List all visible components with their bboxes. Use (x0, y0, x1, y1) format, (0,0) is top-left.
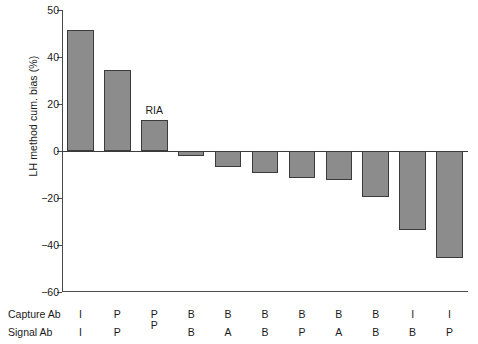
y-axis-tick-label: 0 (53, 145, 59, 157)
category-cell: B (188, 326, 195, 338)
category-cell: B (188, 308, 195, 320)
y-axis-tick-label: 40 (47, 51, 59, 63)
category-cell: P (114, 326, 121, 338)
bar (362, 151, 389, 197)
category-cell: B (372, 326, 379, 338)
bar-series (62, 10, 468, 292)
bar (326, 151, 353, 180)
category-label-table: Capture AbIPPBBBBBBIISignal AbIPBABPABBP… (0, 298, 478, 344)
y-axis-tick-label: −40 (41, 239, 59, 251)
category-cell: P (298, 326, 305, 338)
bar (141, 120, 168, 151)
bar (178, 151, 205, 156)
category-cell: B (298, 308, 305, 320)
category-cell: I (79, 308, 82, 320)
category-cell: P (114, 308, 121, 320)
category-cell: A (335, 326, 342, 338)
category-cell-merged: P (151, 319, 158, 331)
category-cell: P (446, 326, 453, 338)
plot-area: 5040200−20−40−60 RIA (62, 10, 468, 292)
bar (104, 70, 131, 151)
category-cell: B (409, 326, 416, 338)
category-row-label: Capture Ab (8, 308, 61, 320)
category-row-label: Signal Ab (8, 326, 52, 338)
y-axis-title: LH method cum. bias (%) (27, 21, 39, 211)
bar (436, 151, 463, 258)
bar (252, 151, 279, 173)
y-axis-tick-label: −60 (41, 286, 59, 298)
bar (67, 30, 94, 151)
category-cell: I (79, 326, 82, 338)
bar (399, 151, 426, 230)
bar (215, 151, 242, 167)
y-axis-tick-label: 20 (47, 98, 59, 110)
y-axis-tick-label: −20 (41, 192, 59, 204)
category-cell: B (261, 308, 268, 320)
bar (289, 151, 316, 178)
category-cell: B (261, 326, 268, 338)
category-cell: B (225, 308, 232, 320)
category-cell: A (225, 326, 232, 338)
category-cell: B (335, 308, 342, 320)
category-cell: I (411, 308, 414, 320)
category-cell: I (448, 308, 451, 320)
y-axis-tick-label: 50 (47, 4, 59, 16)
annotation-ria: RIA (146, 104, 164, 116)
category-cell: B (372, 308, 379, 320)
bias-bar-chart-figure: LH method cum. bias (%) 5040200−20−40−60… (0, 0, 478, 344)
